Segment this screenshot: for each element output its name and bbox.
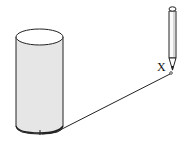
cylinder bbox=[16, 29, 63, 135]
pencil bbox=[169, 7, 176, 74]
point-x-label: X bbox=[157, 60, 166, 75]
